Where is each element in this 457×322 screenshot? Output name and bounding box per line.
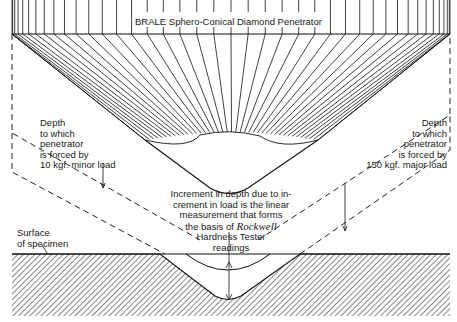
penetrator-title: BRALE Sphero-Conical Diamond Penetrator	[0, 16, 457, 27]
surface-label: Surface of specimen	[17, 228, 68, 249]
major-load-label: Depth to which penetrator is forced by 1…	[366, 118, 447, 171]
increment-label: Increment in depth due to in- crement in…	[158, 189, 304, 253]
minor-load-label: Depth to which penetrator is forced by 1…	[40, 118, 116, 171]
rockwell-emphasis: Rockwell	[236, 220, 276, 232]
